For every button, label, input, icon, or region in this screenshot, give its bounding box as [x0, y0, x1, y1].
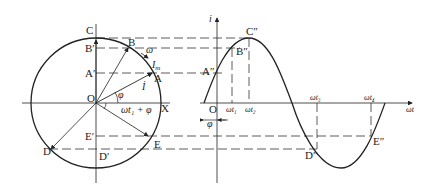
label-wt4: ωt₄ — [364, 93, 375, 102]
label-B-dprime: B″ — [236, 45, 248, 57]
label-E: E — [154, 138, 161, 150]
label-A: A — [154, 72, 162, 84]
label-C: C — [86, 24, 93, 36]
label-omega: ω — [146, 44, 153, 55]
label-i: i — [209, 13, 212, 24]
label-wt3: ωt₃ — [310, 93, 321, 102]
label-A-dprime: A″ — [202, 65, 215, 77]
label-phi-right: φ — [207, 118, 213, 129]
angle-arc — [104, 103, 106, 109]
waveform-labels: i C″ B″ A″ O φ ωt₁ ωt₂ ωt₃ ωt₄ ωt D″ E″ — [202, 13, 415, 161]
label-E-prime: E′ — [85, 130, 94, 142]
label-O-right: O — [209, 103, 217, 115]
label-C-dprime: C″ — [246, 25, 258, 37]
label-X: X — [161, 102, 169, 114]
label-D-dprime: D″ — [305, 149, 318, 161]
label-wt1: ωt₁ — [226, 105, 237, 114]
label-wt2: ωt₂ — [245, 105, 256, 114]
phasor-D — [51, 103, 96, 149]
phasor-labels: C B′ B ω Im A′ A İ O φ ωt₁ + φ X E′ E D … — [43, 24, 169, 162]
projection-lines — [49, 38, 371, 149]
label-D-prime: D′ — [99, 150, 109, 162]
label-A-prime: A′ — [85, 67, 95, 79]
label-O-left: O — [87, 92, 95, 104]
label-D: D — [43, 145, 51, 157]
phasor-waveform-diagram: C B′ B ω Im A′ A İ O φ ωt₁ + φ X E′ E D … — [0, 0, 431, 193]
label-B: B — [128, 36, 135, 48]
label-phi-left: φ — [118, 89, 124, 100]
label-wt: ωt — [406, 105, 415, 114]
label-angle: ωt₁ + φ — [121, 104, 152, 115]
label-E-dprime: E″ — [373, 135, 384, 147]
label-B-prime: B′ — [85, 42, 95, 54]
label-I-phasor: İ — [141, 81, 146, 92]
